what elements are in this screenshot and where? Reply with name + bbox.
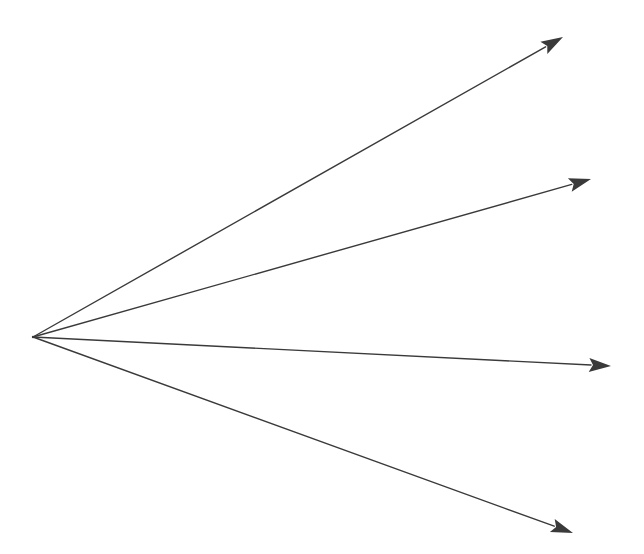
arrow-shaft-4	[33, 337, 554, 526]
arrow-shaft-2	[33, 184, 572, 337]
arrow-shaft-1	[33, 47, 546, 337]
arrow-group	[33, 37, 611, 533]
arrowhead-icon	[540, 37, 563, 54]
arrow-shaft-3	[33, 337, 591, 365]
arrowhead-icon	[589, 358, 611, 372]
diagram-canvas	[0, 0, 644, 554]
origin-point	[32, 336, 34, 338]
